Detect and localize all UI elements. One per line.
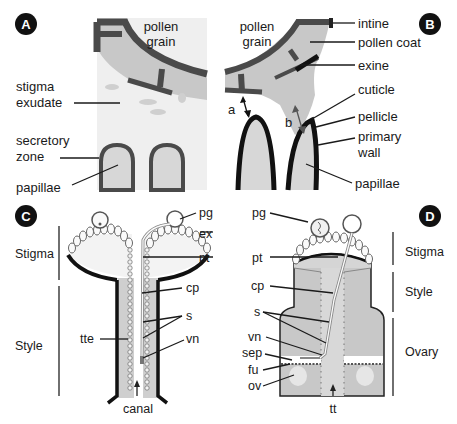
- label-tt: tt: [330, 402, 337, 416]
- badge-d-label: D: [425, 209, 434, 224]
- intine-marker: [329, 18, 333, 28]
- badge-b-label: B: [425, 17, 434, 32]
- label-stigma: Stigma: [15, 247, 54, 261]
- label-pollen-grain: pollen: [144, 19, 179, 34]
- pollen-nucleus: [99, 223, 102, 226]
- label-arrow-a: a: [228, 102, 236, 117]
- papilla-left-fill: [238, 118, 274, 190]
- leader-cuticle: [312, 94, 355, 119]
- pollination-diagram: A pollen grain stigma exudate secretory …: [0, 0, 457, 424]
- label-secretory-zone: secretory: [16, 133, 70, 148]
- label-fu: fu: [248, 363, 258, 377]
- label-cuticle: cuticle: [358, 82, 395, 97]
- septum-right: [344, 356, 383, 364]
- papilla: [101, 145, 133, 190]
- label-style: Style: [405, 285, 433, 299]
- exudate-blob: [139, 99, 157, 105]
- label-canal: canal: [123, 402, 153, 416]
- label-exine: exine: [358, 58, 389, 73]
- label-pollen-grain-2: grain: [147, 34, 176, 49]
- badge-c-label: C: [21, 209, 31, 224]
- style-wall-left: [108, 280, 117, 403]
- pollen-grain-right: [343, 215, 361, 233]
- label-pollen-grain-2: grain: [243, 34, 272, 49]
- leader-pellicle: [316, 117, 355, 127]
- label-secretory-zone-2: zone: [16, 149, 44, 164]
- exine-foot: [225, 90, 262, 92]
- label-primary-wall: primary: [358, 129, 402, 144]
- arrow-a-head: [244, 110, 251, 118]
- panel-a: A pollen grain stigma exudate secretory …: [15, 13, 207, 195]
- label-pt: pt: [199, 251, 210, 265]
- badge-a-label: A: [21, 17, 31, 32]
- label-s: s: [254, 305, 260, 319]
- exudate-blob: [150, 109, 166, 115]
- panel-d: D: [242, 205, 444, 416]
- label-stigma-exudate-2: exudate: [16, 95, 62, 110]
- label-sep: sep: [242, 346, 262, 360]
- label-papillae: papillae: [355, 176, 400, 191]
- label-ex: ex: [199, 227, 213, 241]
- transmitting-tract: [321, 268, 344, 396]
- label-arrow-b: b: [285, 115, 292, 130]
- exine-strut: [160, 69, 162, 87]
- label-ov: ov: [248, 379, 262, 393]
- label-papillae: papillae: [16, 180, 61, 195]
- label-ovary: Ovary: [405, 345, 439, 359]
- exudate-blob: [105, 84, 119, 90]
- label-s: s: [186, 309, 192, 323]
- label-pellicle: pellicle: [358, 109, 398, 124]
- label-pt: pt: [252, 251, 263, 265]
- label-intine: intine: [358, 16, 389, 31]
- label-tte: tte: [80, 332, 94, 346]
- label-cp: cp: [251, 279, 264, 293]
- label-primary-wall-2: wall: [357, 145, 381, 160]
- label-cp: cp: [186, 281, 199, 295]
- style-wall-right: [158, 280, 167, 403]
- leader-primary-wall: [318, 138, 355, 145]
- panel-b: a b pollen grain intine pollen coat exin…: [225, 13, 441, 191]
- exudate-blob: [178, 93, 186, 103]
- label-stigma: Stigma: [405, 245, 444, 259]
- label-style: Style: [15, 339, 43, 353]
- label-pg: pg: [252, 206, 266, 220]
- label-pg: pg: [199, 206, 213, 220]
- panel-c: C Stigma Style: [15, 205, 213, 416]
- leader-pg: [270, 213, 308, 222]
- label-vn: vn: [248, 330, 261, 344]
- ovule-right: [356, 366, 374, 386]
- label-stigma-exudate: stigma: [16, 79, 55, 94]
- label-vn: vn: [186, 332, 199, 346]
- stigma-dome: [294, 254, 371, 268]
- label-pollen-coat: pollen coat: [358, 35, 421, 50]
- papilla: [151, 145, 183, 190]
- label-pollen-grain: pollen: [240, 19, 275, 34]
- pollen-grain-left: [92, 212, 108, 228]
- arrow-a-head: [240, 96, 246, 103]
